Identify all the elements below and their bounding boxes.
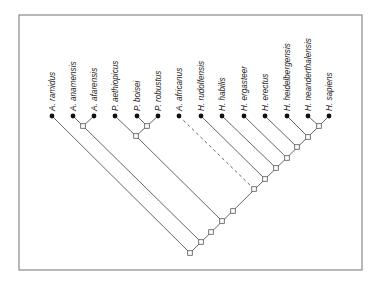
taxon-label: P. boisei [133, 80, 142, 111]
internal-node-s5 [252, 187, 257, 192]
leaf-dot [92, 114, 97, 119]
leaf-dot [135, 114, 140, 119]
leaf-dot [285, 114, 290, 119]
taxon-label: A. afarensis [90, 68, 99, 112]
tree-nodes [81, 124, 322, 256]
taxon-label: H. habilis [218, 77, 227, 111]
internal-node-s8 [285, 156, 290, 161]
taxon-label: A. africanus [175, 68, 184, 112]
internal-node-s10 [306, 135, 311, 140]
leaf-dot [263, 114, 268, 119]
taxon-anamensis: A. anamensis [69, 61, 78, 118]
taxon-erectus: H. erectus [261, 74, 270, 119]
internal-node-s6 [263, 177, 268, 182]
edge-P-clade-s3 [136, 136, 222, 221]
edge-aethiopicus-P-clade [115, 116, 136, 136]
taxon-label: H. heidelbergensis [283, 43, 292, 111]
tree-edges [52, 116, 329, 253]
edge-africanus-s5 [179, 116, 254, 189]
edge-ergaster-s8 [244, 116, 287, 158]
taxon-heidelbergensis: H. heidelbergensis [283, 43, 292, 118]
edge-habilis-s7 [222, 116, 276, 168]
edge-rudolfensis-s6 [201, 116, 265, 179]
leaf-dot [177, 114, 182, 119]
leaf-dot [199, 114, 204, 119]
taxon-neanderthalensis: H. neanderthalensis [304, 38, 313, 118]
cladogram-figure: A. ramidusA. anamensisA. afarensisP. aet… [0, 0, 379, 285]
taxon-label: P. robustus [154, 71, 163, 111]
taxon-habilis: H. habilis [218, 77, 227, 118]
internal-node-s0 [188, 251, 193, 256]
taxon-label: H. ergasteer [240, 66, 249, 111]
taxon-boisei: P. boisei [133, 80, 142, 118]
taxon-africanus: A. africanus [175, 68, 184, 119]
internal-node-s1 [199, 240, 204, 245]
taxon-sapiens: H. sapiens [325, 72, 334, 118]
internal-node-s2 [209, 230, 214, 235]
edge-A-clade-s1 [83, 126, 201, 242]
edge-ramidus-s0 [52, 116, 190, 253]
leaf-dot [220, 114, 225, 119]
internal-node-A-clade [81, 124, 86, 129]
taxon-label: A. ramidus [48, 72, 57, 112]
taxon-rudolfensis: H. rudolfensis [197, 61, 206, 118]
leaf-dot [156, 114, 161, 119]
taxon-label: A. anamensis [69, 61, 78, 112]
leaf-dot [306, 114, 311, 119]
leaf-dot [242, 114, 247, 119]
internal-node-s4 [231, 209, 236, 214]
internal-node-s9 [295, 145, 300, 150]
internal-node-P-clade [134, 134, 139, 139]
internal-node-NS [317, 124, 322, 129]
taxon-robustus: P. robustus [154, 71, 163, 119]
leaf-dot [71, 114, 76, 119]
taxon-ramidus: A. ramidus [48, 72, 57, 119]
leaf-dot [50, 114, 55, 119]
taxon-label: H. rudolfensis [197, 61, 206, 111]
taxon-label: H. erectus [261, 74, 270, 111]
taxon-ergaster: H. ergasteer [240, 66, 249, 119]
taxon-afarensis: A. afarensis [90, 68, 99, 119]
taxon-label: P. aethiopicus [111, 61, 120, 111]
taxon-aethiopicus: P. aethiopicus [111, 61, 120, 119]
leaf-dot [113, 114, 118, 119]
internal-node-s7 [274, 166, 279, 171]
internal-node-s3 [220, 219, 225, 224]
taxon-label: H. sapiens [325, 72, 334, 111]
edge-heidelbergensis-s10 [287, 116, 308, 137]
tree-leaves: A. ramidusA. anamensisA. afarensisP. aet… [48, 38, 334, 118]
leaf-dot [327, 114, 332, 119]
taxon-label: H. neanderthalensis [304, 38, 313, 111]
internal-node-Pbr [145, 124, 150, 129]
